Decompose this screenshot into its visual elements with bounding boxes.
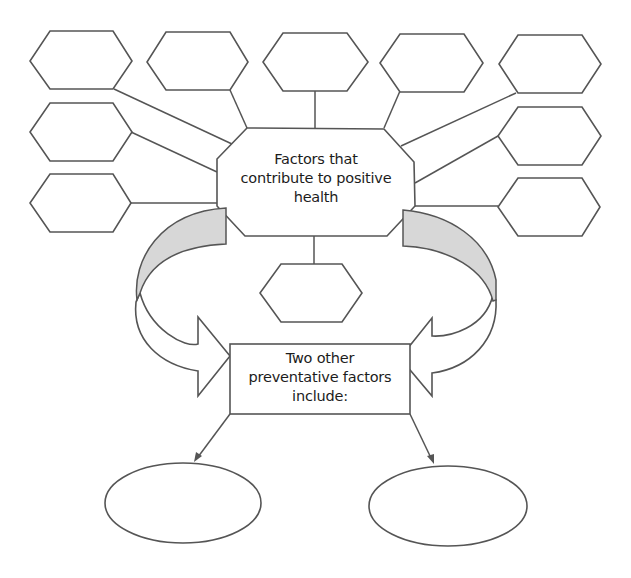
- central-label-line-2: contribute to positive: [217, 169, 415, 188]
- arrow-line-right: [410, 414, 431, 458]
- right-arrow-shaded-band: [403, 210, 496, 301]
- hexagon-top-5[interactable]: [499, 35, 601, 93]
- connector-top-1: [114, 89, 232, 144]
- central-label-line-3: health: [217, 188, 415, 207]
- hexagon-top-4[interactable]: [380, 34, 483, 92]
- down-arrows: [194, 414, 434, 464]
- hexagon-top-3[interactable]: [263, 33, 368, 91]
- preventative-label-line-1: Two other: [230, 349, 410, 368]
- left-arrow-body: [136, 293, 230, 396]
- left-curved-arrow: [136, 208, 230, 396]
- connector-top-4: [384, 91, 400, 128]
- hexagon-top-2[interactable]: [147, 32, 248, 90]
- preventative-box-label: Two other preventative factors include:: [230, 349, 410, 406]
- hexagon-right-2[interactable]: [498, 107, 601, 165]
- central-label-line-1: Factors that: [217, 150, 415, 169]
- hexagon-right-3[interactable]: [498, 178, 600, 236]
- hexagon-top-1[interactable]: [30, 31, 132, 89]
- preventative-label-line-3: include:: [230, 387, 410, 406]
- hexagon-left-3[interactable]: [30, 174, 131, 232]
- ellipse-right[interactable]: [369, 466, 527, 546]
- hexagon-left-2[interactable]: [30, 103, 132, 161]
- connector-left-2: [131, 132, 217, 172]
- left-arrow-shaded-band: [136, 208, 226, 300]
- central-node-label: Factors that contribute to positive heal…: [217, 150, 415, 207]
- preventative-label-line-2: preventative factors: [230, 368, 410, 387]
- arrowhead-right-icon: [427, 454, 434, 464]
- ellipse-left[interactable]: [105, 463, 261, 543]
- connector-right-2: [415, 136, 498, 183]
- connector-top-2: [230, 90, 247, 128]
- right-curved-arrow: [400, 210, 496, 396]
- hexagon-bottom[interactable]: [260, 264, 362, 322]
- right-arrow-body: [400, 295, 496, 396]
- spider-diagram: [0, 0, 631, 578]
- arrow-line-left: [198, 414, 230, 457]
